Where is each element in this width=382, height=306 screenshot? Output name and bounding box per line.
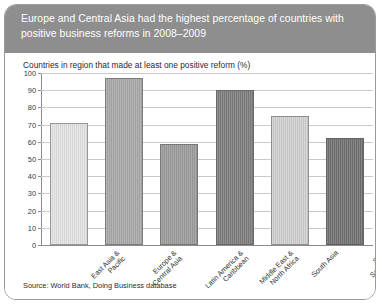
gridline: [41, 211, 373, 212]
y-tick-label: 90: [28, 86, 36, 95]
y-tick-mark: [38, 245, 41, 246]
bar: [160, 144, 198, 245]
y-tick-label: 70: [28, 120, 36, 129]
y-tick-mark: [38, 90, 41, 91]
gridline: [41, 159, 373, 160]
y-tick-mark: [38, 125, 41, 126]
gridline: [41, 193, 373, 194]
y-tick-mark: [38, 228, 41, 229]
y-tick-label: 80: [28, 103, 36, 112]
plot-area: 0102030405060708090100 East Asia & Pacif…: [41, 73, 373, 245]
y-tick-mark: [38, 211, 41, 212]
y-tick-label: 40: [28, 172, 36, 181]
x-axis-line: [41, 245, 373, 246]
source-note: Source: World Bank, Doing Business datab…: [23, 281, 177, 290]
chart-subtitle: Countries in region that made at least o…: [23, 60, 250, 70]
gridline: [41, 125, 373, 126]
x-tick-label: Sub-Saharan Africa: [363, 249, 376, 286]
y-tick-label: 60: [28, 137, 36, 146]
y-tick-mark: [38, 159, 41, 160]
y-tick-mark: [38, 107, 41, 108]
bar: [105, 78, 143, 245]
y-tick-mark: [38, 176, 41, 177]
y-tick-label: 10: [28, 223, 36, 232]
y-tick-label: 100: [24, 69, 36, 78]
bar: [216, 90, 254, 245]
y-tick-label: 30: [28, 189, 36, 198]
x-tick-label: Latin America & Caribbean: [204, 249, 251, 296]
y-tick-label: 20: [28, 206, 36, 215]
y-tick-mark: [38, 193, 41, 194]
gridline: [41, 90, 373, 91]
y-tick-label: 50: [28, 155, 36, 164]
figure-title-banner: Europe and Central Asia had the highest …: [5, 5, 376, 53]
gridline: [41, 107, 373, 108]
y-tick-label: 0: [32, 241, 36, 250]
y-tick-mark: [38, 73, 41, 74]
bar: [271, 116, 309, 245]
gridline: [41, 176, 373, 177]
chart-body: Countries in region that made at least o…: [5, 53, 376, 300]
y-tick-mark: [38, 142, 41, 143]
x-tick-label: South Asia: [310, 249, 340, 279]
bar: [326, 138, 364, 245]
x-tick-label: Middle East & North Africa: [258, 249, 301, 292]
gridline: [41, 142, 373, 143]
figure-title: Europe and Central Asia had the highest …: [21, 12, 361, 41]
gridline: [41, 73, 373, 74]
gridline: [41, 228, 373, 229]
figure-card: Europe and Central Asia had the highest …: [4, 4, 376, 300]
bar: [50, 123, 88, 245]
